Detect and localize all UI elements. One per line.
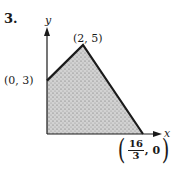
open-paren: ( bbox=[118, 136, 126, 164]
fraction: 16 3 bbox=[128, 139, 144, 161]
fraction-denominator: 3 bbox=[132, 151, 139, 162]
y-axis-label: y bbox=[45, 15, 51, 26]
fraction-numerator: 16 bbox=[128, 139, 144, 151]
vertex-label-2-5: (2, 5) bbox=[73, 33, 103, 44]
y-axis-arrow-icon bbox=[44, 27, 50, 36]
close-paren: ) bbox=[162, 136, 170, 164]
fraction-tail: , 0 bbox=[145, 144, 160, 157]
vertex-label-16-3-0: ( 16 3 , 0 ) bbox=[116, 136, 171, 164]
shaded-region bbox=[47, 45, 143, 134]
vertex-label-0-3: (0, 3) bbox=[4, 75, 34, 86]
